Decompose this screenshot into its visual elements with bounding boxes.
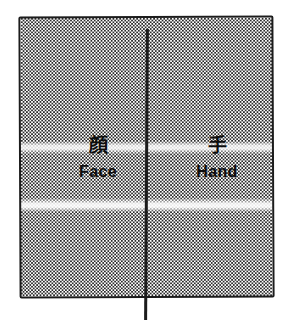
panel-label-face: 顔 Face xyxy=(52,136,144,180)
kanji-hand: 手 xyxy=(171,136,263,155)
panel-label-hand: 手 Hand xyxy=(171,136,263,180)
kanji-face: 顔 xyxy=(52,136,144,155)
label-hand: Hand xyxy=(171,164,263,180)
label-face: Face xyxy=(52,164,144,180)
outer-frame: 顔 Face 手 Hand xyxy=(19,16,274,298)
